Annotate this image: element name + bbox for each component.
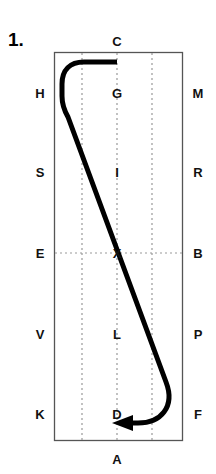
marker-label-R: R bbox=[193, 166, 202, 179]
marker-label-B: B bbox=[193, 247, 202, 260]
marker-label-F: F bbox=[194, 408, 202, 421]
ridden-track-line bbox=[62, 62, 169, 423]
marker-label-S: S bbox=[36, 166, 45, 179]
figure-root: 1. C A H S E V K M R B P F G I X L D bbox=[0, 0, 216, 474]
marker-label-X: X bbox=[113, 247, 122, 260]
marker-label-C: C bbox=[112, 35, 121, 48]
marker-label-V: V bbox=[36, 328, 45, 341]
marker-label-E: E bbox=[36, 247, 45, 260]
marker-label-P: P bbox=[194, 328, 203, 341]
marker-label-K: K bbox=[35, 408, 44, 421]
marker-label-D: D bbox=[112, 408, 121, 421]
marker-label-I: I bbox=[115, 166, 119, 179]
marker-label-G: G bbox=[112, 87, 122, 100]
marker-label-H: H bbox=[35, 87, 44, 100]
arena-diagram bbox=[0, 0, 216, 474]
marker-label-A: A bbox=[112, 453, 121, 466]
marker-label-L: L bbox=[113, 328, 121, 341]
marker-label-M: M bbox=[193, 87, 204, 100]
